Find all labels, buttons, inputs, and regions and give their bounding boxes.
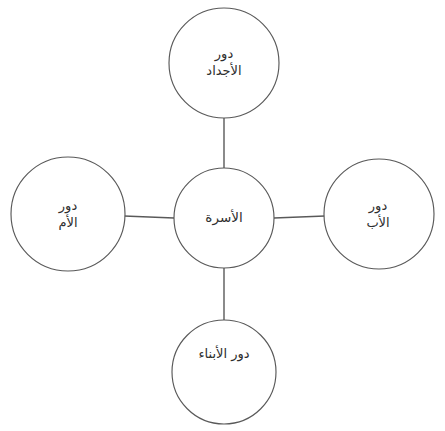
node-circle-family-center[interactable] — [174, 168, 274, 268]
node-circle-mother[interactable] — [11, 157, 125, 271]
connector-center-to-mother — [124, 216, 174, 218]
connector-center-to-father — [274, 216, 325, 218]
node-circle-children[interactable] — [172, 320, 276, 424]
node-circle-father[interactable] — [324, 159, 434, 269]
family-roles-diagram: دور الأجداد دور الأب دور الأبناء دور الأ… — [0, 0, 445, 431]
node-circle-grandparents[interactable] — [169, 8, 279, 118]
diagram-canvas — [0, 0, 445, 431]
